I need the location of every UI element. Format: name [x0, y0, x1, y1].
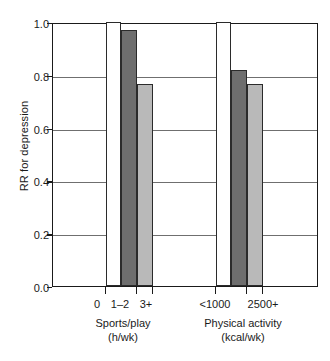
- x-tick-label-activity-2500: 2500+: [248, 298, 279, 310]
- y-axis-title: RR for depression: [18, 36, 30, 256]
- x-tick-mark-g1-a: [105, 287, 106, 294]
- y-tick-label-0-6: 0.6: [9, 125, 49, 136]
- y-tick-label-0-2: 0.2: [9, 230, 49, 241]
- y-tick-mark-0-0: [47, 287, 52, 288]
- gridline-0-8: [53, 77, 317, 78]
- bar-chart-figure: RR for depression 1.0 0.8 0.6 0.4 0.2 0.…: [0, 0, 330, 361]
- y-tick-label-1-0: 1.0: [9, 19, 49, 30]
- gridline-0-2: [53, 235, 317, 236]
- x-tick-mark-g1-b: [136, 287, 137, 294]
- x-tick-mark-g2-a: [215, 287, 216, 294]
- group-caption-activity: Physical activity (kcal/wk): [204, 316, 282, 344]
- x-tick-label-sports-0: 0: [94, 298, 100, 310]
- x-tick-label-sports-3plus: 3+: [140, 298, 153, 310]
- group-caption-activity-line1: Physical activity: [204, 317, 282, 329]
- bar-sports-1-2: [121, 30, 137, 286]
- bar-activity-2500plus: [247, 84, 263, 286]
- gridline-0-4: [53, 182, 317, 183]
- bar-sports-3plus: [137, 84, 153, 286]
- y-tick-label-0-0: 0.0: [9, 283, 49, 294]
- x-tick-mark-g2-b: [246, 287, 247, 294]
- group-caption-sports: Sports/play (h/wk): [95, 316, 150, 344]
- x-tick-mark-g2-c: [262, 287, 263, 294]
- bar-sports-0: [106, 22, 121, 286]
- group-caption-sports-line1: Sports/play: [95, 317, 150, 329]
- x-tick-mark-g1-c: [152, 287, 153, 294]
- x-tick-label-sports-1-2: 1–2: [111, 298, 129, 310]
- gridline-0-6: [53, 130, 317, 131]
- bar-activity-under1000: [231, 70, 247, 287]
- group-caption-activity-line2: (kcal/wk): [204, 330, 282, 344]
- group-caption-sports-line2: (h/wk): [95, 330, 150, 344]
- y-tick-label-0-8: 0.8: [9, 72, 49, 83]
- y-tick-label-0-4: 0.4: [9, 177, 49, 188]
- bar-activity-reference: [216, 22, 231, 286]
- plot-area: [52, 23, 318, 287]
- x-tick-label-activity-u1000: <1000: [200, 298, 231, 310]
